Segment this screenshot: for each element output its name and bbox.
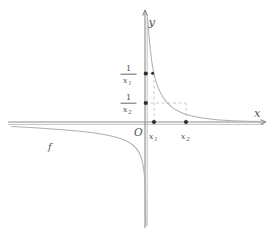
x-tick-x1-sub: 1 bbox=[154, 136, 157, 142]
inv-x2-denom-base: x bbox=[123, 105, 128, 114]
dot-inv-x1 bbox=[144, 71, 148, 75]
inv-x1-numerator: 1 bbox=[126, 63, 131, 73]
guide-lines bbox=[145, 74, 186, 123]
inv-x2-denom-sub: 2 bbox=[127, 109, 132, 115]
dot-inv-x2 bbox=[144, 101, 148, 105]
curve-branch-negative bbox=[11, 127, 146, 227]
x-tick-label-x1: x 1 bbox=[149, 132, 158, 142]
dot-curve-x1 bbox=[151, 72, 154, 75]
inv-x2-numerator: 1 bbox=[126, 92, 131, 102]
y-tick-label-inv-x2: 1 x 2 bbox=[121, 92, 137, 115]
y-axis-label: y bbox=[148, 15, 156, 29]
curve-branch-positive bbox=[148, 18, 261, 122]
dot-x1 bbox=[152, 120, 156, 124]
x-axis-label: x bbox=[254, 106, 261, 120]
x-tick-x2-base: x bbox=[181, 132, 186, 141]
origin-label: O bbox=[134, 126, 143, 138]
x-tick-x2-sub: 2 bbox=[185, 136, 190, 142]
x-tick-label-x2: x 2 bbox=[181, 132, 190, 142]
inv-x1-denom-sub: 1 bbox=[128, 80, 131, 86]
point-markers bbox=[144, 71, 188, 124]
function-label: f bbox=[47, 141, 53, 152]
x-tick-x1-base: x bbox=[149, 132, 154, 141]
reciprocal-function-figure: y x O f x 1 x 2 1 x 1 1 x 2 bbox=[0, 0, 276, 237]
dot-x2 bbox=[184, 120, 188, 124]
inv-x1-denom-base: x bbox=[123, 76, 128, 85]
y-tick-label-inv-x1: 1 x 1 bbox=[121, 63, 137, 86]
